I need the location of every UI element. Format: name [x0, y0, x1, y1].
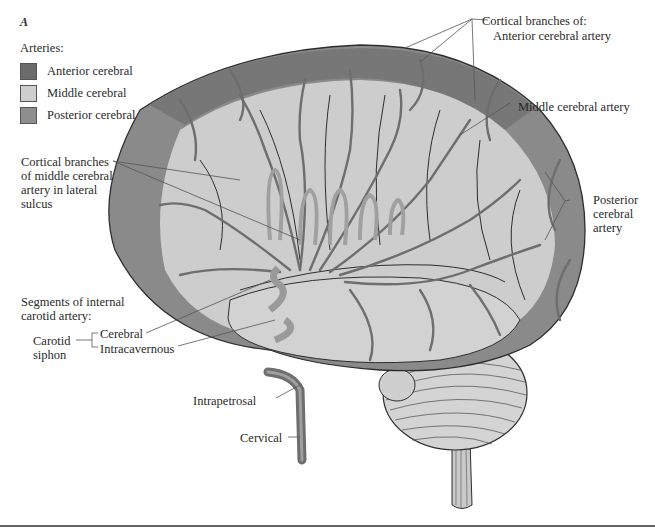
label-posterior-1: Posterior [593, 193, 638, 207]
brain-illustration [0, 0, 655, 532]
label-cortical-branches-of: Cortical branches of: [482, 14, 587, 28]
label-lateral-sulcus-3: artery in lateral [21, 183, 97, 197]
label-intracavernous: Intracavernous [100, 342, 174, 356]
label-cerebral: Cerebral [100, 327, 143, 341]
bottom-rule [0, 525, 655, 527]
label-lateral-sulcus-2: of middle cerebral [21, 169, 113, 183]
label-anterior-cerebral-artery: Anterior cerebral artery [493, 29, 611, 43]
label-segments-1: Segments of internal [21, 295, 124, 309]
pons [379, 369, 415, 401]
label-lateral-sulcus-1: Cortical branches [21, 155, 109, 169]
temporal-lobe [228, 277, 520, 363]
label-carotid: Carotid [33, 334, 71, 348]
label-cervical: Cervical [240, 431, 282, 445]
label-siphon: siphon [33, 348, 66, 362]
label-posterior-3: artery [593, 221, 622, 235]
label-intrapetrosal: Intrapetrosal [193, 394, 256, 408]
label-lateral-sulcus-4: sulcus [21, 197, 52, 211]
label-posterior-2: cerebral [593, 207, 633, 221]
label-segments-2: carotid artery: [21, 309, 91, 323]
label-middle-cerebral-artery: Middle cerebral artery [518, 100, 630, 114]
